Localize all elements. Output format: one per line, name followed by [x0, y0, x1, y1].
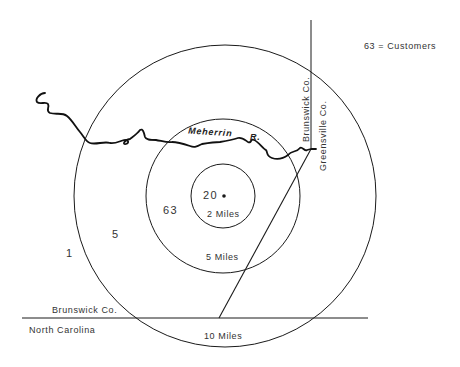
count-outside-ring: 1 [66, 248, 74, 259]
meherrin-river [37, 93, 316, 159]
count-5-mile-ring: 63 [163, 205, 178, 216]
river-suffix-label: R. [250, 133, 261, 142]
center-point-icon [222, 194, 226, 198]
county-label-brunswick-horizontal: Brunswick Co. [52, 306, 117, 315]
ring-label-10-miles: 10 Miles [204, 332, 242, 341]
ring-label-5-miles: 5 Miles [206, 253, 239, 262]
count-2-mile-ring: 20 [203, 190, 218, 201]
state-label-north-carolina: North Carolina [29, 326, 95, 335]
county-line-diagonal [219, 149, 311, 318]
county-label-greensville: Greensville Co. [319, 100, 328, 171]
count-10-mile-ring: 5 [112, 229, 120, 240]
ring-label-2-miles: 2 Miles [207, 210, 240, 219]
legend-text: 63 = Customers [364, 42, 436, 51]
county-label-brunswick-vertical: Brunswick Co. [302, 77, 311, 142]
